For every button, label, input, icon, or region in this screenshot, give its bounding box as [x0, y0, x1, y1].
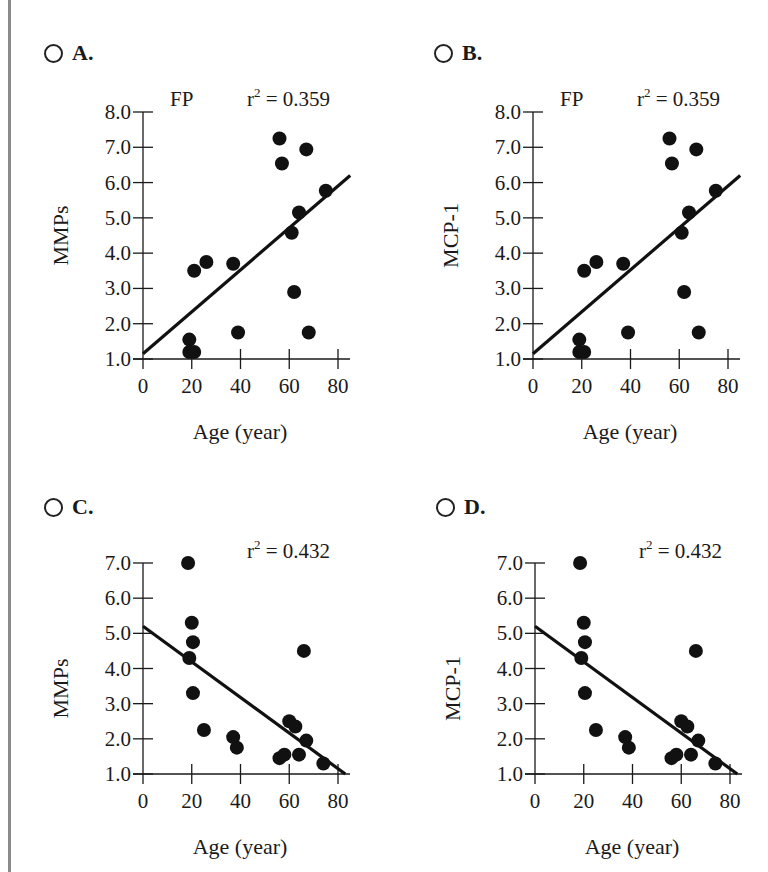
x-axis-label: Age (year)	[583, 419, 678, 444]
data-point	[709, 184, 723, 198]
y-axis-label: MMPs	[48, 206, 73, 266]
r-squared-annotation: r2 = 0.432	[639, 537, 722, 563]
data-point	[187, 345, 201, 359]
x-tick-label: 40	[620, 374, 641, 398]
data-point	[277, 748, 291, 762]
data-point	[622, 741, 636, 755]
data-point	[684, 748, 698, 762]
y-tick-label: 2.0	[105, 312, 131, 336]
regression-line	[143, 626, 345, 774]
x-tick-label: 60	[669, 374, 690, 398]
x-tick-label: 80	[328, 374, 349, 398]
data-point	[288, 720, 302, 734]
x-tick-label: 60	[279, 374, 300, 398]
x-tick-label: 80	[328, 789, 349, 813]
data-point	[186, 635, 200, 649]
y-tick-label: 1.0	[105, 762, 131, 786]
regression-line	[143, 176, 350, 354]
data-point	[665, 157, 679, 171]
data-point	[319, 184, 333, 198]
data-point	[578, 635, 592, 649]
data-point	[182, 333, 196, 347]
y-tick-label: 7.0	[495, 135, 521, 159]
data-point	[316, 756, 330, 770]
data-point	[230, 741, 244, 755]
plot-subtitle: FP	[170, 87, 193, 111]
x-tick-label: 0	[530, 789, 541, 813]
y-tick-label: 6.0	[497, 586, 523, 610]
y-tick-label: 2.0	[105, 727, 131, 751]
answer-option-b[interactable]: B. 1.02.03.04.05.06.07.08.0020406080Age …	[434, 40, 768, 470]
y-tick-label: 8.0	[105, 100, 131, 124]
x-tick-label: 40	[230, 789, 251, 813]
y-tick-label: 6.0	[105, 586, 131, 610]
y-tick-label: 3.0	[105, 692, 131, 716]
data-point	[275, 157, 289, 171]
data-point	[577, 264, 591, 278]
y-tick-label: 4.0	[105, 241, 131, 265]
data-point	[181, 556, 195, 570]
y-tick-label: 4.0	[495, 241, 521, 265]
data-point	[682, 206, 696, 220]
answer-option-a[interactable]: A. 1.02.03.04.05.06.07.08.0020406080Age …	[44, 40, 414, 470]
x-axis-label: Age (year)	[585, 834, 680, 859]
y-tick-label: 3.0	[497, 692, 523, 716]
data-point	[573, 556, 587, 570]
x-tick-label: 0	[138, 789, 149, 813]
data-point	[574, 651, 588, 665]
y-tick-label: 6.0	[495, 171, 521, 195]
data-point	[186, 686, 200, 700]
x-tick-label: 20	[571, 374, 592, 398]
r-squared-annotation: r2 = 0.359	[247, 85, 330, 111]
y-axis-label: MMPs	[48, 659, 73, 719]
y-tick-label: 2.0	[497, 727, 523, 751]
data-point	[299, 734, 313, 748]
plot-subtitle: FP	[560, 87, 583, 111]
data-point	[197, 723, 211, 737]
r-squared-annotation: r2 = 0.432	[247, 537, 330, 563]
data-point	[689, 142, 703, 156]
y-tick-label: 4.0	[497, 657, 523, 681]
data-point	[285, 226, 299, 240]
y-tick-label: 7.0	[105, 551, 131, 575]
scatter-plot-d: 1.02.03.04.05.06.07.0020406080Age (year)…	[436, 494, 768, 872]
x-axis-label: Age (year)	[193, 834, 288, 859]
answer-option-c[interactable]: C. 1.02.03.04.05.06.07.0020406080Age (ye…	[44, 494, 414, 872]
data-point	[692, 326, 706, 340]
y-tick-label: 1.0	[495, 347, 521, 371]
data-point	[297, 644, 311, 658]
x-tick-label: 0	[138, 374, 149, 398]
page-left-border	[8, 0, 11, 872]
answer-option-d[interactable]: D. 1.02.03.04.05.06.07.0020406080Age (ye…	[436, 494, 768, 872]
y-axis-label: MCP-1	[440, 656, 465, 721]
y-tick-label: 5.0	[497, 621, 523, 645]
data-point	[621, 326, 635, 340]
data-point	[292, 206, 306, 220]
regression-line	[533, 176, 740, 354]
x-tick-label: 20	[573, 789, 594, 813]
regression-line	[535, 626, 737, 774]
x-tick-label: 40	[230, 374, 251, 398]
data-point	[577, 616, 591, 630]
data-point	[273, 131, 287, 145]
scatter-plot-c: 1.02.03.04.05.06.07.0020406080Age (year)…	[44, 494, 414, 872]
data-point	[292, 748, 306, 762]
y-tick-label: 1.0	[497, 762, 523, 786]
x-tick-label: 60	[279, 789, 300, 813]
y-tick-label: 5.0	[495, 206, 521, 230]
x-tick-label: 40	[622, 789, 643, 813]
data-point	[669, 748, 683, 762]
data-point	[226, 257, 240, 271]
data-point	[577, 345, 591, 359]
x-tick-label: 20	[181, 374, 202, 398]
y-tick-label: 1.0	[105, 347, 131, 371]
data-point	[578, 686, 592, 700]
x-tick-label: 80	[718, 374, 739, 398]
y-tick-label: 4.0	[105, 657, 131, 681]
y-tick-label: 3.0	[495, 276, 521, 300]
data-point	[675, 226, 689, 240]
data-point	[302, 326, 316, 340]
scatter-plot-b: 1.02.03.04.05.06.07.08.0020406080Age (ye…	[434, 40, 768, 470]
data-point	[689, 644, 703, 658]
data-point	[231, 326, 245, 340]
